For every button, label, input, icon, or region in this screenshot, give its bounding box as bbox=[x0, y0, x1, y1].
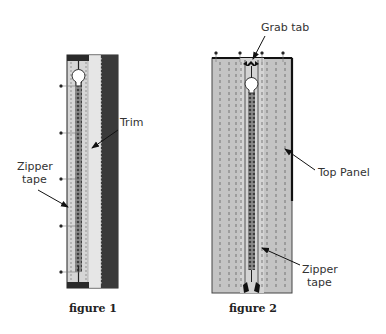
caption-figure-1: figure 1 bbox=[69, 302, 117, 315]
figure2-zipper-teeth bbox=[248, 92, 255, 270]
figure-2: Grab tab Top Panel Zipper tape figure 2 bbox=[212, 21, 370, 315]
caption-figure-2: figure 2 bbox=[229, 302, 277, 315]
figure1-dark-strip bbox=[101, 55, 118, 288]
zipper-diagram: Trim Zipper tape figure 1 bbox=[0, 0, 386, 334]
label-zipper-tape-1-line1: Zipper bbox=[17, 160, 53, 173]
label-zipper-tape-1-line2: tape bbox=[22, 173, 47, 186]
label-trim: Trim bbox=[119, 116, 143, 129]
label-grab-tab: Grab tab bbox=[261, 21, 309, 34]
figure-1: Trim Zipper tape figure 1 bbox=[17, 55, 143, 315]
figure1-trim bbox=[88, 55, 101, 288]
label-zipper-tape-2-line2: tape bbox=[307, 276, 332, 289]
figure1-zipper-teeth bbox=[75, 82, 82, 272]
label-top-panel: Top Panel bbox=[317, 166, 370, 179]
label-zipper-tape-2-line1: Zipper bbox=[302, 263, 338, 276]
